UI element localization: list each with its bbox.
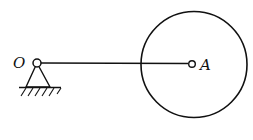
rod-oa <box>41 63 188 64</box>
pin-o <box>33 59 41 67</box>
mechanism-diagram: O A <box>0 0 253 140</box>
point-a <box>189 61 196 68</box>
label-o: O <box>13 54 25 72</box>
ground-hatching <box>21 88 61 96</box>
label-a: A <box>198 56 211 74</box>
